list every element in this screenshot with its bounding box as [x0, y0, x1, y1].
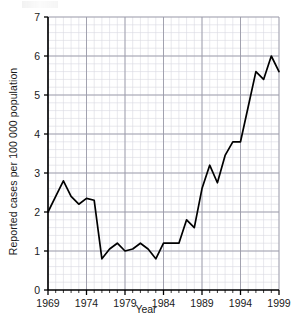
- y-tick-label: 4: [22, 129, 40, 139]
- x-tick-label: 1974: [67, 298, 107, 308]
- y-tick-label: 7: [22, 12, 40, 22]
- x-tick-label: 1969: [28, 298, 68, 308]
- x-tick-label: 1994: [221, 298, 261, 308]
- y-tick-label: 1: [22, 246, 40, 256]
- x-tick-label: 1979: [105, 298, 145, 308]
- x-tick-label: 1984: [144, 298, 184, 308]
- y-tick-label: 0: [22, 285, 40, 295]
- x-tick-label: 1999: [259, 298, 292, 308]
- x-tick-label: 1989: [182, 298, 222, 308]
- line-chart-plot: [0, 0, 292, 323]
- chart-figure: Reported cases per 100 000 population Ye…: [0, 0, 292, 323]
- y-tick-label: 2: [22, 207, 40, 217]
- y-tick-label: 3: [22, 168, 40, 178]
- y-tick-label: 5: [22, 90, 40, 100]
- y-tick-label: 6: [22, 51, 40, 61]
